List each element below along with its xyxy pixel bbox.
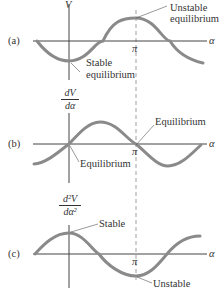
equilibrium-diagram: [0, 0, 219, 298]
pi-label-a: π: [132, 43, 137, 54]
annotation-unstable-line1: Unstable: [170, 2, 207, 13]
ylabel-dv-dalpha: dV dα: [61, 88, 79, 111]
annotation-unstable-line2: equilibrium: [170, 13, 219, 24]
ylabel-v: V: [65, 0, 71, 10]
ylabel-d2v-dalpha2: d²V dα²: [59, 194, 81, 217]
panel-tag-c: (c): [8, 248, 20, 259]
annotation-unstable-c: Unstable: [153, 278, 190, 289]
xlabel-alpha-c: α: [209, 248, 215, 259]
annotation-stable-c: Stable: [99, 218, 125, 229]
pi-label-c: π: [132, 256, 137, 267]
annotation-equilibrium-pi: Equilibrium: [155, 116, 206, 127]
annotation-stable-line1: Stable: [86, 57, 112, 68]
annotation-stable-line2: equilibrium: [86, 69, 135, 80]
xlabel-alpha-a: α: [209, 35, 215, 46]
annotation-equilibrium-zero: Equilibrium: [80, 158, 131, 169]
panel-tag-b: (b): [8, 138, 20, 149]
pi-label-b: π: [132, 146, 137, 157]
panel-tag-a: (a): [8, 35, 20, 46]
xlabel-alpha-b: α: [209, 138, 215, 149]
